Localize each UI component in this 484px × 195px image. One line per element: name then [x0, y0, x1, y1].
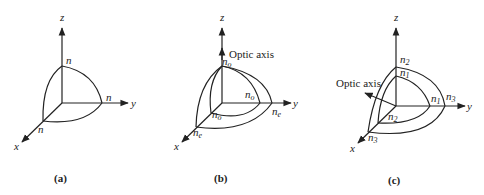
- panel-b: z y x Optic axis no no ne no ne (b): [173, 11, 298, 185]
- n-y-label: n: [106, 91, 112, 103]
- z-label: z: [393, 11, 399, 23]
- n2-z-label: n2: [400, 53, 410, 67]
- index-ellipsoid-diagram: z y x n n n (a) z y x Optic axis no no n…: [0, 0, 484, 195]
- zy-arc-inner: [396, 76, 430, 106]
- zx-arc-inner: [210, 66, 222, 113]
- optic-axis-label: Optic axis: [336, 77, 381, 89]
- n1-y-label: n1: [431, 92, 441, 106]
- optic-axis-label: Optic axis: [229, 48, 274, 60]
- x-label: x: [349, 142, 355, 154]
- n-o-y-label: no: [245, 88, 255, 102]
- z-label: z: [219, 11, 225, 23]
- panel-c: z y x Optic axis n2 n1 n1 n3 n2 n3 (c): [336, 11, 472, 187]
- caption-b: (b): [214, 172, 228, 185]
- n1-z-label: n1: [400, 66, 410, 80]
- z-label: z: [59, 11, 65, 23]
- y-label: y: [130, 97, 136, 109]
- y-label: y: [292, 97, 298, 109]
- n-o-x-label: no: [212, 108, 222, 122]
- panel-a: z y x n n n (a): [13, 11, 136, 185]
- xy-arc-inner: [378, 106, 430, 123]
- n2-x-label: n2: [388, 110, 398, 124]
- caption-a: (a): [54, 172, 67, 185]
- x-label: x: [173, 140, 179, 152]
- n-x-label: n: [38, 123, 44, 135]
- x-label: x: [13, 140, 19, 152]
- n3-y-label: n3: [446, 90, 456, 104]
- y-label: y: [466, 100, 472, 112]
- n-z-label: n: [66, 54, 72, 66]
- n-e-y-label: ne: [272, 105, 282, 119]
- zy-arc: [62, 66, 102, 103]
- caption-c: (c): [388, 174, 401, 187]
